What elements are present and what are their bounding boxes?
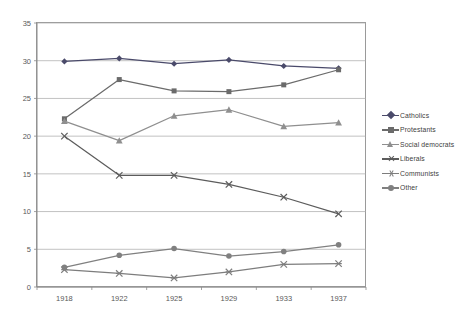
legend-label: Protestants [399, 126, 436, 133]
data-point-square [336, 67, 341, 72]
legend-marker-triangle-icon [382, 139, 399, 150]
data-point-square [117, 77, 122, 82]
legend-marker-star-icon [382, 168, 399, 179]
data-point-circle [336, 242, 342, 248]
data-point-star [281, 261, 287, 267]
legend-item-protestants[interactable]: Protestants [382, 123, 464, 138]
series-catholics [61, 55, 341, 71]
legend-item-other[interactable]: Other [382, 181, 464, 196]
x-tick-label: 1925 [166, 294, 183, 303]
x-tick-label: 1922 [111, 294, 128, 303]
data-point-diamond [281, 63, 287, 69]
legend-label: Other [399, 184, 418, 191]
y-tick-label: 15 [23, 170, 31, 179]
data-point-circle [62, 265, 68, 271]
chart-legend: CatholicsProtestantsSocial democratsLibe… [382, 108, 464, 195]
legend-label: Communists [399, 170, 439, 177]
x-tick-label: 1918 [56, 294, 73, 303]
data-point-circle [116, 253, 122, 259]
data-point-circle [281, 249, 287, 255]
series-communists [61, 260, 342, 281]
y-tick-label: 25 [23, 94, 31, 103]
legend-marker-x-icon [382, 153, 399, 164]
legend-item-social-democrats[interactable]: Social democrats [382, 137, 464, 152]
data-point-square [226, 89, 231, 94]
series-other [62, 242, 342, 270]
y-tick-label: 20 [23, 132, 31, 141]
y-tick-labels: 05101520253035 [23, 19, 31, 292]
data-point-square [172, 88, 177, 93]
series-line [64, 70, 338, 119]
data-point-square [281, 82, 286, 87]
legend-item-communists[interactable]: Communists [382, 166, 464, 181]
y-tick-label: 5 [27, 245, 31, 254]
x-tick-label: 1929 [221, 294, 238, 303]
series-line [64, 264, 338, 278]
y-axis-line [34, 23, 37, 287]
series-social-democrats [61, 106, 342, 143]
data-point-diamond [226, 57, 232, 63]
legend-label: Social democrats [399, 141, 454, 148]
data-point-star [171, 275, 177, 281]
x-axis-line [37, 287, 366, 290]
series-line [64, 58, 338, 68]
series-liberals [61, 133, 342, 217]
legend-item-liberals[interactable]: Liberals [382, 152, 464, 167]
x-tick-label: 1937 [330, 294, 347, 303]
legend-item-catholics[interactable]: Catholics [382, 108, 464, 123]
x-tick-labels: 191819221925192919331937 [56, 294, 347, 303]
legend-marker-diamond-icon [382, 110, 399, 121]
y-tick-label: 30 [23, 57, 31, 66]
series-line [64, 136, 338, 214]
data-point-star [335, 260, 341, 266]
data-point-star [116, 270, 122, 276]
y-tick-label: 0 [27, 283, 31, 292]
data-point-circle [171, 246, 177, 252]
y-tick-label: 10 [23, 207, 31, 216]
legend-marker-square-icon [382, 124, 399, 135]
y-tick-label: 35 [23, 19, 31, 28]
data-point-star [226, 269, 232, 275]
legend-marker-circle-icon [382, 182, 399, 193]
data-point-diamond [171, 61, 177, 67]
chart-page: 05101520253035 191819221925192919331937 … [0, 0, 464, 313]
data-point-diamond [61, 58, 67, 64]
series-lines [61, 55, 342, 281]
legend-label: Catholics [399, 112, 429, 119]
legend-label: Liberals [399, 155, 425, 162]
x-tick-label: 1933 [275, 294, 292, 303]
data-point-circle [226, 253, 232, 259]
